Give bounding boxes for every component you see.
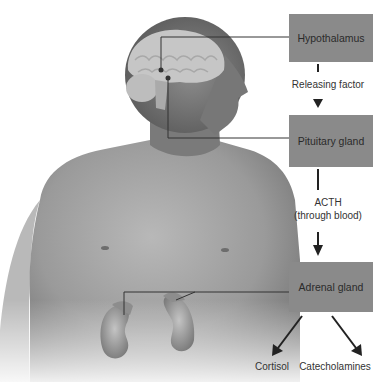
through-blood-text: (through blood) (282, 209, 374, 222)
hpa-axis-diagram: Hypothalamus Pituitary gland Adrenal gla… (0, 0, 374, 382)
cortisol-text: Cortisol (255, 361, 289, 372)
adrenal-gland-box: Adrenal gland (289, 262, 373, 312)
acth-text: ACTH (282, 196, 374, 209)
catecholamines-label: Catecholamines (296, 360, 374, 373)
releasing-factor-text: Releasing factor (292, 79, 364, 90)
hypothalamus-label: Hypothalamus (297, 32, 364, 44)
cortisol-label: Cortisol (244, 360, 300, 373)
adrenal-gland-label: Adrenal gland (299, 281, 364, 293)
pituitary-gland-box: Pituitary gland (289, 115, 373, 167)
catecholamines-text: Catecholamines (299, 361, 371, 372)
releasing-factor-label: Releasing factor (282, 78, 374, 91)
acth-label: ACTH (through blood) (282, 196, 374, 222)
pituitary-gland-label: Pituitary gland (298, 135, 365, 147)
hypothalamus-box: Hypothalamus (289, 14, 373, 62)
